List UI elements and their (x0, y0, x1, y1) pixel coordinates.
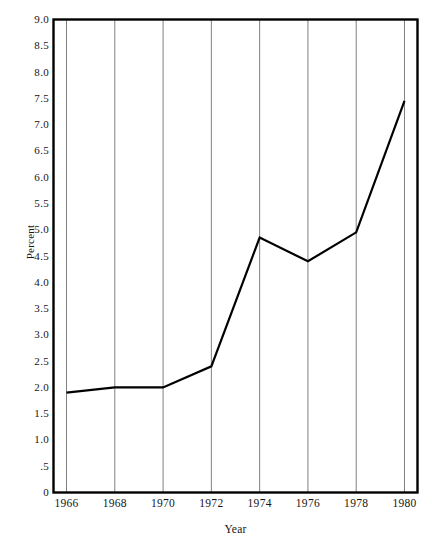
y-tick-label: 6.0 (5, 172, 49, 183)
y-tick-label: 3.0 (5, 329, 49, 340)
x-axis-title: Year (53, 523, 418, 535)
y-tick-label: 1.5 (5, 408, 49, 419)
y-tick-label: 5.5 (5, 198, 49, 209)
y-axis-title: Percent (24, 212, 36, 272)
plot-background (0, 0, 432, 551)
y-tick-label: 3.5 (5, 303, 49, 314)
y-tick-label: 8.0 (5, 67, 49, 78)
y-axis-tick-labels: 0.51.01.52.02.53.03.54.04.55.05.56.06.57… (0, 0, 49, 551)
y-tick-label: 6.5 (5, 145, 49, 156)
line-chart-plot (0, 0, 432, 551)
y-tick-label: 2.5 (5, 356, 49, 367)
y-tick-label: 8.5 (5, 40, 49, 51)
y-tick-label: 2.0 (5, 382, 49, 393)
chart-figure: 0.51.01.52.02.53.03.54.04.55.05.56.06.57… (0, 0, 432, 551)
y-tick-label: 9.0 (5, 14, 49, 25)
y-tick-label: 1.0 (5, 434, 49, 445)
y-tick-label: 4.0 (5, 277, 49, 288)
y-tick-label: .5 (5, 461, 49, 472)
x-axis-tick-labels: 19661968197019721974197619781980 (0, 497, 432, 521)
y-tick-label: 7.5 (5, 93, 49, 104)
y-tick-label: 7.0 (5, 119, 49, 130)
x-tick-label: 1980 (375, 497, 432, 509)
